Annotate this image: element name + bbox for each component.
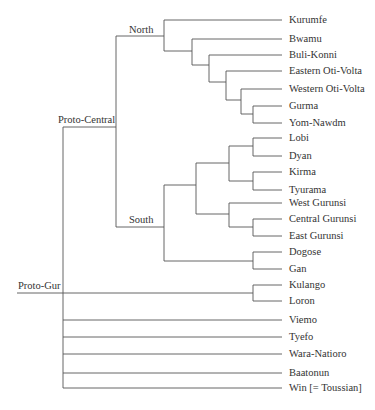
leaf-label: Dyan xyxy=(289,150,312,162)
leaf-label: Win [= Toussian] xyxy=(289,382,362,394)
leaf-label: Gurma xyxy=(289,100,318,112)
leaf-label: Central Gurunsi xyxy=(289,213,356,225)
node-label-proto-gur: Proto-Gur xyxy=(18,280,61,292)
leaf-label: Viemo xyxy=(289,314,317,326)
leaf-label: Dogose xyxy=(289,246,321,258)
leaf-label: Gan xyxy=(289,263,307,275)
leaf-label: Loron xyxy=(289,295,315,307)
node-label-north: North xyxy=(129,24,154,36)
node-label-proto-central: Proto-Central xyxy=(58,114,115,126)
leaf-label: Wara-Natioro xyxy=(289,348,346,360)
leaf-label: Eastern Oti-Volta xyxy=(289,65,362,77)
leaf-label: Bwamu xyxy=(289,33,322,45)
leaf-label: Kurumfe xyxy=(289,14,327,26)
leaf-label: Tyurama xyxy=(289,184,326,196)
leaf-label: Kirma xyxy=(289,166,316,178)
leaf-label: Buli-Konni xyxy=(289,49,337,61)
leaf-label: Kulango xyxy=(289,279,325,291)
node-label-south: South xyxy=(129,214,154,226)
leaf-label: East Gurunsi xyxy=(289,230,344,242)
leaf-label: Western Oti-Volta xyxy=(289,83,365,95)
leaf-label: Yom-Nawdm xyxy=(289,117,346,129)
leaf-label: Lobi xyxy=(289,132,309,144)
leaf-label: Tyefo xyxy=(289,331,313,343)
leaf-label: West Gurunsi xyxy=(289,197,346,209)
leaf-label: Baatonun xyxy=(289,367,329,379)
